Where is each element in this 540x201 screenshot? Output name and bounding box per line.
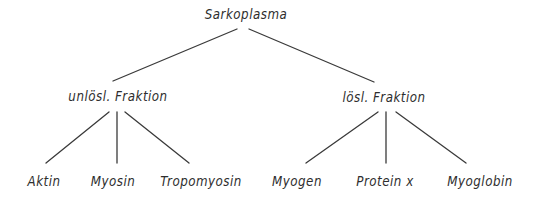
edge-unloesl-to-aktin — [46, 112, 109, 163]
edge-root-to-unloesl — [113, 29, 237, 81]
node-tropomyosin: Tropomyosin — [160, 174, 242, 189]
node-sarkoplasma: Sarkoplasma — [205, 7, 287, 22]
node-aktin: Aktin — [28, 174, 61, 189]
edge-loesl-to-myoglobin — [396, 112, 466, 163]
node-myosin: Myosin — [91, 174, 136, 189]
edge-loesl-to-myogen — [306, 112, 378, 163]
node-myoglobin: Myoglobin — [447, 174, 513, 189]
node-loesl-fraktion: lösl. Fraktion — [342, 90, 425, 105]
edge-unloesl-to-tropomyosin — [125, 112, 189, 163]
node-unloesl-fraktion: unlösl. Fraktion — [68, 89, 167, 104]
diagram-canvas: Sarkoplasma unlösl. Fraktion lösl. Frakt… — [0, 0, 540, 201]
edge-root-to-loesl — [249, 29, 374, 82]
node-protein-x: Protein x — [356, 174, 413, 189]
node-myogen: Myogen — [272, 174, 322, 189]
